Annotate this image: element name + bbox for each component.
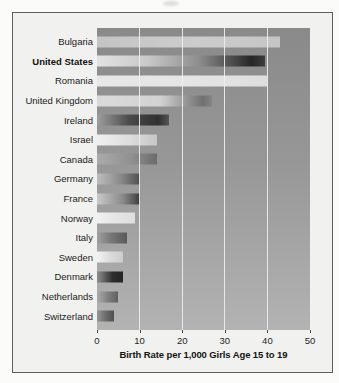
category-label-switzerland: Switzerland bbox=[13, 306, 93, 326]
x-tick-labels: 01020304050 bbox=[97, 333, 310, 345]
bar-denmark bbox=[97, 271, 123, 282]
category-labels: BulgariaUnited StatesRomaniaUnited Kingd… bbox=[13, 32, 93, 326]
bar-row-united-kingdom bbox=[97, 91, 310, 111]
category-label-netherlands: Netherlands bbox=[13, 287, 93, 307]
category-label-norway: Norway bbox=[13, 208, 93, 228]
x-axis-title: Birth Rate per 1,000 Girls Age 15 to 19 bbox=[77, 349, 330, 360]
bar-bulgaria bbox=[97, 36, 280, 47]
bar-row-israel bbox=[97, 130, 310, 150]
category-label-canada: Canada bbox=[13, 150, 93, 170]
category-label-italy: Italy bbox=[13, 228, 93, 248]
bar-row-france bbox=[97, 189, 310, 209]
category-label-sweden: Sweden bbox=[13, 248, 93, 268]
category-label-ireland: Ireland bbox=[13, 110, 93, 130]
bar-united-kingdom bbox=[97, 95, 212, 106]
bar-israel bbox=[97, 134, 157, 145]
bar-netherlands bbox=[97, 291, 118, 302]
gridline-30 bbox=[224, 28, 225, 330]
x-tick-label-20: 20 bbox=[177, 335, 188, 346]
bar-row-canada bbox=[97, 150, 310, 170]
x-tick-label-0: 0 bbox=[94, 335, 99, 346]
bar-row-norway bbox=[97, 208, 310, 228]
bar-sweden bbox=[97, 252, 123, 263]
bar-row-romania bbox=[97, 71, 310, 91]
x-tick-label-10: 10 bbox=[134, 335, 145, 346]
x-tickmark-50 bbox=[310, 330, 311, 333]
category-label-israel: Israel bbox=[13, 130, 93, 150]
category-label-germany: Germany bbox=[13, 169, 93, 189]
bars-container bbox=[97, 32, 310, 326]
bar-switzerland bbox=[97, 311, 114, 322]
bar-italy bbox=[97, 232, 127, 243]
x-tick-label-40: 40 bbox=[262, 335, 273, 346]
bar-norway bbox=[97, 213, 135, 224]
gridline-40 bbox=[267, 28, 268, 330]
category-label-bulgaria: Bulgaria bbox=[13, 32, 93, 52]
plot-area bbox=[97, 28, 310, 330]
bar-row-denmark bbox=[97, 267, 310, 287]
gridline-10 bbox=[139, 28, 140, 330]
bar-row-switzerland bbox=[97, 306, 310, 326]
category-label-france: France bbox=[13, 189, 93, 209]
category-label-romania: Romania bbox=[13, 71, 93, 91]
gridline-20 bbox=[182, 28, 183, 330]
bar-row-united-states bbox=[97, 52, 310, 72]
bar-row-netherlands bbox=[97, 287, 310, 307]
category-label-united-states: United States bbox=[13, 52, 93, 72]
figure-frame: BulgariaUnited StatesRomaniaUnited Kingd… bbox=[12, 12, 333, 373]
bar-row-italy bbox=[97, 228, 310, 248]
bar-row-germany bbox=[97, 169, 310, 189]
bar-france bbox=[97, 193, 140, 204]
bar-row-sweden bbox=[97, 248, 310, 268]
scan-smudge-artifact bbox=[163, 1, 179, 6]
bar-row-bulgaria bbox=[97, 32, 310, 52]
bar-canada bbox=[97, 154, 157, 165]
bar-germany bbox=[97, 173, 140, 184]
bar-ireland bbox=[97, 115, 169, 126]
category-label-denmark: Denmark bbox=[13, 267, 93, 287]
x-tick-label-50: 50 bbox=[305, 335, 316, 346]
x-tick-label-30: 30 bbox=[220, 335, 231, 346]
category-label-united-kingdom: United Kingdom bbox=[13, 91, 93, 111]
bar-row-ireland bbox=[97, 110, 310, 130]
